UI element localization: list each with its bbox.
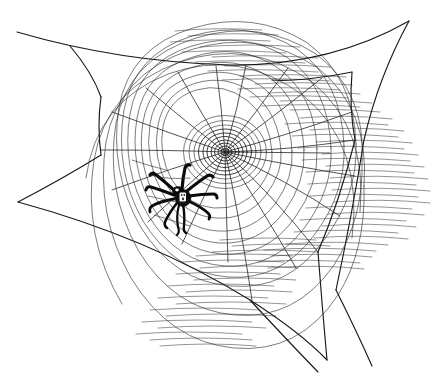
right-background-hatching — [258, 116, 430, 269]
spider-head-spot — [175, 189, 179, 192]
spider-abdomen-marking — [180, 193, 187, 202]
spider-web-illustration: Spider Web with Spider orb weaver spider… — [0, 0, 436, 383]
web-spiral-outer — [86, 22, 365, 349]
illustration-svg — [0, 0, 436, 383]
web-frame — [17, 21, 409, 372]
